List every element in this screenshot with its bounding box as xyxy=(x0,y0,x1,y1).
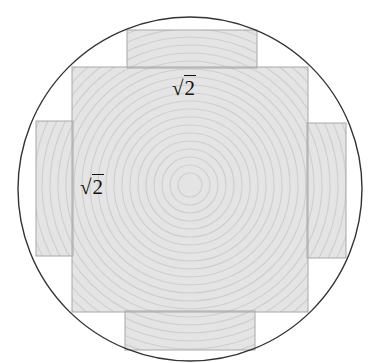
radical-sign: √ xyxy=(172,76,184,100)
diagram-canvas xyxy=(0,0,377,363)
label-top-side: √2 xyxy=(172,76,196,101)
shaded-region xyxy=(0,0,377,363)
radical-sign: √ xyxy=(80,175,92,199)
label-left-side: √2 xyxy=(80,175,104,200)
label-value: 2 xyxy=(92,174,105,199)
label-value: 2 xyxy=(184,75,197,100)
